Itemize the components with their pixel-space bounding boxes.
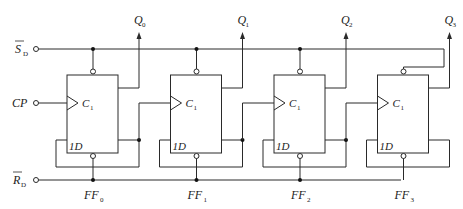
junction-dot: [195, 47, 199, 51]
set-terminal-icon: [34, 47, 39, 52]
reset-terminal-icon: [34, 178, 39, 183]
data-pin-label: 1D: [173, 140, 187, 152]
flip-flop-3: C11DQ3FF3: [367, 13, 457, 204]
ff-index-subscript: 0: [100, 196, 104, 204]
shift-register-diagram: S D CP R D C11DQ0FF0C11DQ1FF1C11DQ2FF2C1…: [0, 0, 463, 209]
clock-input: CP: [12, 96, 39, 110]
ripple-clock-wire: [243, 103, 275, 140]
clock-pin-label: C: [82, 97, 90, 109]
q-output-subscript: 1: [246, 21, 250, 29]
junction-dot: [91, 47, 95, 51]
ff-name-label: FF: [290, 188, 306, 202]
output-arrow-icon: [447, 32, 452, 39]
set-subscript: D: [23, 50, 28, 58]
set-input: S D: [15, 41, 39, 58]
ff-name-label: FF: [187, 188, 203, 202]
reset-input: R D: [12, 172, 39, 189]
data-pin-label: 1D: [276, 140, 290, 152]
clock-pin-subscript: 1: [194, 104, 198, 112]
clock-pin-subscript: 1: [297, 104, 301, 112]
reset-bubble-icon: [91, 154, 96, 159]
flip-flop-group: C11DQ0FF0C11DQ1FF1C11DQ2FF2C11DQ3FF3: [56, 13, 457, 204]
junction-dot: [91, 178, 95, 182]
reset-bubble-icon: [298, 154, 303, 159]
set-bubble-icon: [298, 69, 303, 74]
reset-bubble-icon: [194, 154, 199, 159]
ff-name-label: FF: [83, 188, 99, 202]
reset-bubble-icon: [401, 154, 406, 159]
q-output-subscript: 0: [142, 21, 146, 29]
clock-pin-subscript: 1: [401, 104, 405, 112]
reset-label: R: [12, 173, 21, 187]
data-pin-label: 1D: [69, 140, 83, 152]
set-bubble-icon: [401, 69, 406, 74]
ff-index-subscript: 3: [411, 196, 415, 204]
junction-dot: [298, 178, 302, 182]
output-arrow-icon: [240, 32, 245, 39]
junction-dot: [298, 47, 302, 51]
clock-pin-label: C: [289, 97, 297, 109]
q-output-subscript: 3: [453, 21, 457, 29]
clock-terminal-icon: [34, 101, 39, 106]
q-output-wire: [118, 38, 139, 88]
flip-flop-0: C11DQ0FF0: [56, 13, 171, 204]
set-bubble-icon: [91, 69, 96, 74]
q-output-wire: [325, 38, 346, 88]
q-output-wire: [222, 38, 243, 88]
flip-flop-1: C11DQ1FF1: [160, 13, 275, 204]
data-pin-label: 1D: [380, 140, 394, 152]
ripple-clock-wire: [346, 103, 378, 140]
clock-pin-label: C: [186, 97, 194, 109]
ff-name-label: FF: [394, 188, 410, 202]
ff-index-subscript: 2: [307, 196, 311, 204]
clock-pin-label: C: [393, 97, 401, 109]
flip-flop-2: C11DQ2FF2: [263, 13, 378, 204]
set-bubble-icon: [194, 69, 199, 74]
ff-index-subscript: 1: [204, 196, 208, 204]
reset-subscript: D: [21, 181, 26, 189]
output-arrow-icon: [137, 32, 142, 39]
circuit-canvas: S D CP R D C11DQ0FF0C11DQ1FF1C11DQ2FF2C1…: [0, 0, 463, 209]
ripple-clock-wire: [139, 103, 171, 140]
junction-dot: [195, 178, 199, 182]
clock-pin-subscript: 1: [90, 104, 94, 112]
clock-label: CP: [12, 96, 28, 110]
set-label: S: [15, 42, 21, 56]
q-output-wire: [429, 38, 450, 88]
q-output-subscript: 2: [349, 21, 353, 29]
output-arrow-icon: [344, 32, 349, 39]
